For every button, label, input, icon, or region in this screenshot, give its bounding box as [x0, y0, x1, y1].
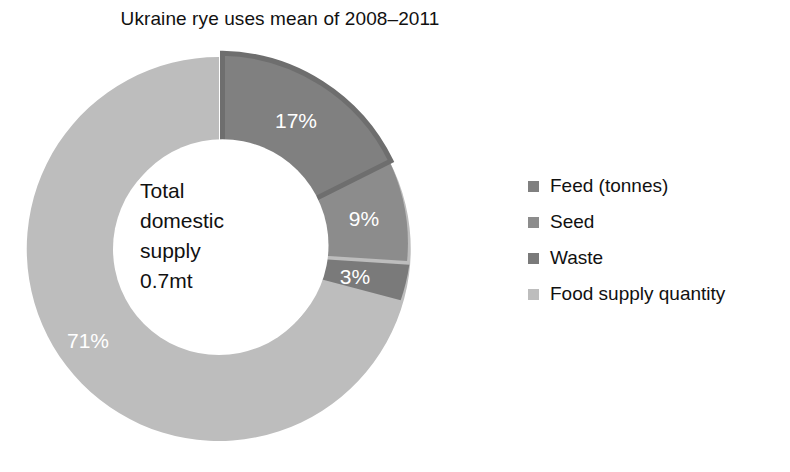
legend-swatch-icon: [528, 289, 539, 300]
legend-label-waste: Waste: [550, 247, 603, 269]
legend-item-seed[interactable]: Seed: [528, 204, 778, 240]
donut-chart: 17% 9% 3% 71% Total domestic supply 0.7m…: [0, 0, 470, 472]
legend-item-feed[interactable]: Feed (tonnes): [528, 168, 778, 204]
center-line-3: supply: [124, 236, 314, 266]
center-line-2: domestic: [124, 206, 314, 236]
slice-value-seed: 9%: [349, 207, 379, 230]
slice-value-feed: 17%: [275, 109, 317, 132]
legend-item-waste[interactable]: Waste: [528, 240, 778, 276]
center-line-4: 0.7mt: [124, 266, 314, 296]
legend-item-food-supply-quantity[interactable]: Food supply quantity: [528, 276, 778, 312]
slice-value-waste: 3%: [340, 265, 370, 288]
center-line-1: Total: [124, 176, 314, 206]
legend-label-seed: Seed: [550, 211, 594, 233]
legend-swatch-icon: [528, 253, 539, 264]
legend-label-food-supply-quantity: Food supply quantity: [550, 283, 725, 305]
slice-value-food-supply-quantity: 71%: [67, 329, 109, 352]
legend-label-feed: Feed (tonnes): [550, 175, 668, 197]
legend-swatch-icon: [528, 181, 539, 192]
chart-legend: Feed (tonnes) Seed Waste Food supply qua…: [528, 168, 778, 312]
donut-center-annotation: Total domestic supply 0.7mt: [124, 176, 314, 296]
chart-page: Ukraine rye uses mean of 2008–2011 17% 9…: [0, 0, 790, 472]
legend-swatch-icon: [528, 217, 539, 228]
